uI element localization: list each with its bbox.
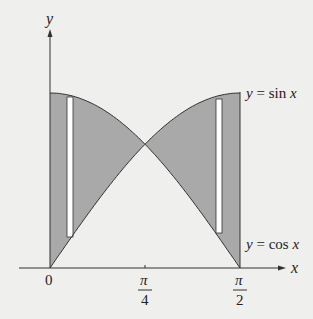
figure-canvas: y x 0 π 4 π 2 y = sin x y = cos x xyxy=(0,0,313,319)
right-shaded-region xyxy=(145,93,240,268)
tick-label-pi-over-2-numerator: π xyxy=(235,272,243,288)
area-between-curves-figure: y x 0 π 4 π 2 y = sin x y = cos x xyxy=(0,0,313,319)
x-axis-arrow-icon xyxy=(278,266,286,271)
tick-label-pi-over-4-denominator: 4 xyxy=(141,292,149,308)
cosine-curve-label: y = cos x xyxy=(244,236,299,252)
sine-curve-label: y = sin x xyxy=(244,85,297,101)
left-strip xyxy=(67,97,73,237)
y-axis-arrow-icon xyxy=(48,29,53,37)
tick-label-pi-over-2-denominator: 2 xyxy=(236,292,244,308)
y-axis-label: y xyxy=(44,10,54,28)
right-strip xyxy=(216,99,222,233)
tick-label-zero: 0 xyxy=(45,272,53,288)
shaded-regions xyxy=(50,93,240,268)
left-shaded-region xyxy=(50,93,145,268)
tick-label-pi-over-4-numerator: π xyxy=(140,272,148,288)
x-axis-label: x xyxy=(290,259,298,276)
